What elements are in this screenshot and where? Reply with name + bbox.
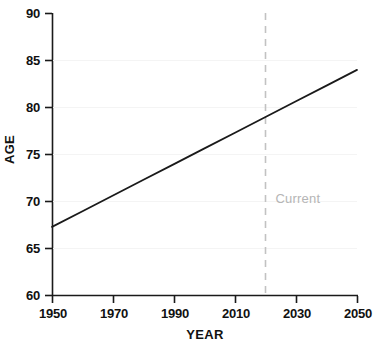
y-axis-title: AGE [2, 125, 17, 175]
y-tick-marks [45, 14, 52, 296]
y-tick-label-70: 70 [6, 194, 40, 209]
y-tick-label-80: 80 [6, 100, 40, 115]
x-tick-label-2030: 2030 [267, 306, 327, 321]
x-tick-label-2050: 2050 [328, 306, 377, 321]
x-tick-label-1970: 1970 [84, 306, 144, 321]
x-tick-label-2010: 2010 [206, 306, 266, 321]
y-tick-label-90: 90 [6, 6, 40, 21]
y-tick-label-85: 85 [6, 53, 40, 68]
y-tick-label-60: 60 [6, 288, 40, 303]
x-tick-label-1990: 1990 [145, 306, 205, 321]
horizontal-gridlines [53, 61, 357, 249]
current-marker-label: Current [276, 191, 321, 206]
x-tick-label-1950: 1950 [23, 306, 83, 321]
x-tick-marks [53, 296, 358, 303]
x-axis-title: YEAR [175, 327, 235, 342]
y-tick-label-65: 65 [6, 241, 40, 256]
